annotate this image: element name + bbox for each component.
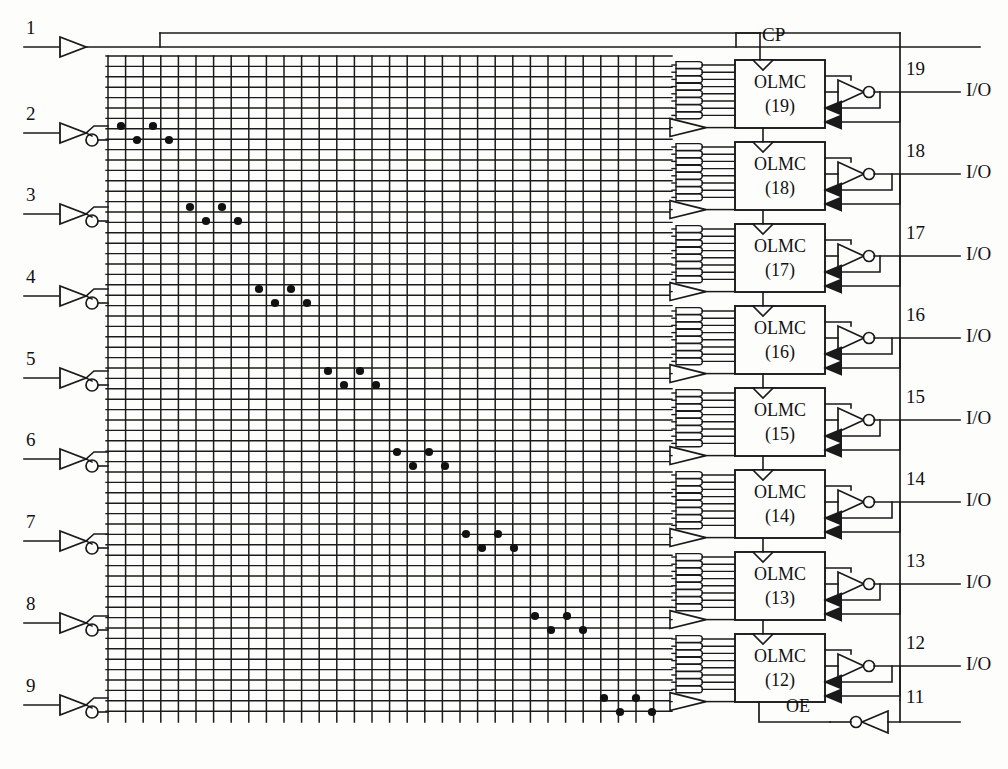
and-gate: [676, 308, 702, 315]
fuse-dot-pin5: [340, 381, 348, 389]
and-gate: [676, 83, 702, 90]
fuse-dot-pin2: [149, 122, 157, 130]
and-gate: [676, 657, 702, 664]
fuse-dot-pin7: [494, 530, 502, 538]
olmc-block-14[interactable]: [735, 470, 825, 538]
io-pin-label-15: I/O: [966, 407, 991, 429]
fuse-dot-pin2: [133, 136, 141, 144]
olmc-block-18[interactable]: [735, 142, 825, 210]
and-gate: [676, 426, 702, 433]
and-gate: [676, 390, 702, 397]
output-inverter-bubble-16: [864, 333, 875, 344]
and-gate: [676, 636, 702, 643]
olmc-block-19[interactable]: [735, 60, 825, 128]
buffer-true-output-8: [86, 616, 108, 623]
and-gate: [676, 508, 702, 515]
buffer-true-output-7: [86, 534, 108, 541]
fuse-dot-pin8: [563, 612, 571, 620]
and-gate: [676, 112, 702, 119]
olmc-label-14: OLMC: [747, 482, 813, 503]
and-gate: [676, 180, 702, 187]
and-gate: [676, 397, 702, 404]
olmc-label-18: OLMC: [747, 154, 813, 175]
and-gate: [676, 472, 702, 479]
and-gate: [676, 404, 702, 411]
and-gate: [676, 98, 702, 105]
buffer-true-output-9: [86, 698, 108, 705]
fuse-dot-pin6: [393, 448, 401, 456]
and-gate: [676, 329, 702, 336]
and-gate: [676, 76, 702, 83]
io-pin-label-17: I/O: [966, 243, 991, 265]
input-buffer-3: [60, 204, 86, 224]
io-pin-number-16: 16: [906, 304, 925, 326]
and-gate: [676, 582, 702, 589]
olmc-number-12: (12): [747, 670, 813, 691]
fuse-dot-pin2: [117, 122, 125, 130]
olmc-block-13[interactable]: [735, 552, 825, 620]
and-gate: [676, 597, 702, 604]
and-gate: [676, 486, 702, 493]
fuse-dot-pin7: [478, 544, 486, 552]
olmc-block-15[interactable]: [735, 388, 825, 456]
io-pin-number-12: 12: [906, 632, 925, 654]
output-inverter-bubble-19: [864, 87, 875, 98]
olmc-block-12[interactable]: [735, 634, 825, 702]
oe-buffer: [862, 711, 888, 733]
fuse-dot-pin5: [372, 381, 380, 389]
and-gate: [676, 561, 702, 568]
olmc-label-17: OLMC: [747, 236, 813, 257]
io-pin-number-18: 18: [906, 140, 925, 162]
input-buffer-6: [60, 449, 86, 469]
output-inverter-bubble-12: [864, 661, 875, 672]
fuse-dot-pin8: [579, 626, 587, 634]
output-inverter-bubble-18: [864, 169, 875, 180]
and-gate: [676, 493, 702, 500]
olmc-label-16: OLMC: [747, 318, 813, 339]
io-pin-label-16: I/O: [966, 325, 991, 347]
buffer-true-output-5: [86, 371, 108, 378]
olmc-number-18: (18): [747, 178, 813, 199]
io-pin-number-19: 19: [906, 58, 925, 80]
buffer-true-output-3: [86, 207, 108, 214]
fuse-dot-pin4: [271, 299, 279, 307]
and-gate: [676, 575, 702, 582]
fuse-dot-pin6: [409, 462, 417, 470]
pin-number-11: 11: [906, 686, 924, 708]
and-gate: [676, 276, 702, 283]
olmc-number-16: (16): [747, 342, 813, 363]
olmc-block-16[interactable]: [735, 306, 825, 374]
olmc-block-17[interactable]: [735, 224, 825, 292]
output-buffer-18: [838, 162, 864, 186]
input-buffer-1: [60, 37, 86, 57]
or-gate: [670, 365, 706, 383]
and-gate: [676, 479, 702, 486]
pin-number-4: 4: [26, 266, 36, 288]
and-gate: [676, 554, 702, 561]
and-gate: [676, 515, 702, 522]
output-buffer-13: [838, 572, 864, 596]
fuse-dot-pin4: [255, 285, 263, 293]
and-gate: [676, 679, 702, 686]
and-gate: [676, 247, 702, 254]
olmc-number-17: (17): [747, 260, 813, 281]
oe-inverter-bubble: [851, 717, 862, 728]
and-gate: [676, 672, 702, 679]
fuse-dot-pin4: [303, 299, 311, 307]
io-pin-number-15: 15: [906, 386, 925, 408]
and-gate: [676, 62, 702, 69]
io-pin-label-13: I/O: [966, 571, 991, 593]
and-gate: [676, 344, 702, 351]
fuse-dot-pin9: [648, 708, 656, 716]
fuse-dot-pin2: [165, 136, 173, 144]
output-buffer-16: [838, 326, 864, 350]
output-inverter-bubble-14: [864, 497, 875, 508]
io-pin-number-17: 17: [906, 222, 925, 244]
oe-label: OE: [786, 696, 810, 717]
input-buffer-9: [60, 695, 86, 715]
and-gate: [676, 262, 702, 269]
and-gate: [676, 105, 702, 112]
fuse-dot-pin4: [287, 285, 295, 293]
fuse-dot-pin9: [632, 694, 640, 702]
and-gate: [676, 194, 702, 201]
